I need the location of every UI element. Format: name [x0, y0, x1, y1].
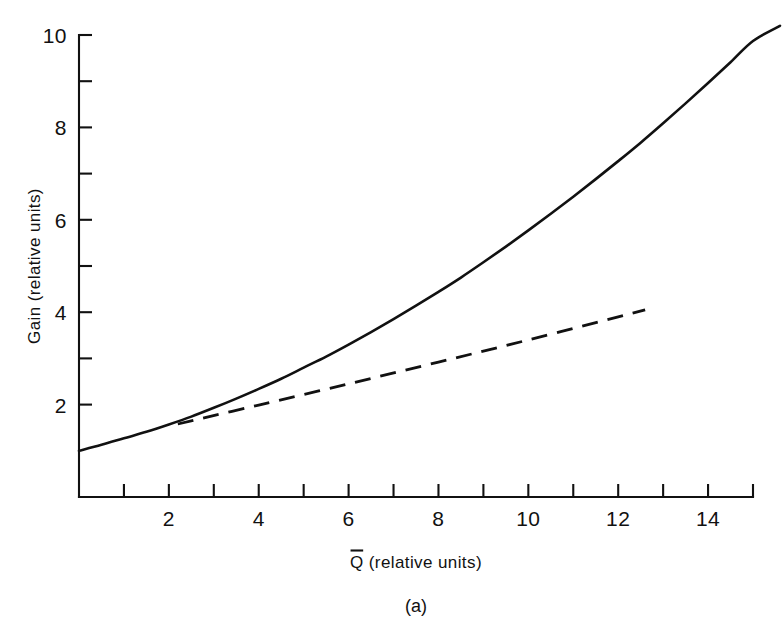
chart-svg: 246810 2468101214 Gain (relative units) … — [0, 0, 782, 627]
x-tick-label: 4 — [253, 507, 265, 530]
y-axis-ticks — [79, 35, 92, 405]
x-axis-tick-labels: 2468101214 — [163, 507, 720, 530]
y-axis-title: Gain (relative units) — [25, 188, 44, 344]
y-axis-tick-labels: 246810 — [43, 24, 67, 417]
x-tick-label: 12 — [606, 507, 630, 530]
x-axis-ticks — [124, 484, 753, 497]
x-tick-label: 8 — [432, 507, 444, 530]
y-tick-label: 6 — [55, 209, 67, 232]
x-tick-label: 10 — [516, 507, 540, 530]
x-axis-title-units: (relative units) — [364, 553, 482, 572]
y-tick-label: 4 — [55, 301, 67, 324]
y-tick-label: 8 — [55, 116, 67, 139]
y-tick-label: 2 — [55, 394, 67, 417]
x-tick-label: 2 — [163, 507, 175, 530]
dashed-curve — [178, 310, 645, 424]
x-tick-label: 14 — [696, 507, 720, 530]
solid-curve — [79, 26, 780, 451]
figure-panel: 246810 2468101214 Gain (relative units) … — [0, 0, 782, 627]
figure-caption: (a) — [405, 596, 427, 616]
x-axis-title-symbol: Q — [350, 553, 364, 572]
x-axis-title: Q (relative units) — [350, 551, 482, 573]
x-axis-title-text: Q (relative units) — [350, 553, 482, 572]
y-axis-title-text: Gain (relative units) — [25, 188, 44, 344]
y-tick-label: 10 — [43, 24, 67, 47]
x-tick-label: 6 — [343, 507, 355, 530]
